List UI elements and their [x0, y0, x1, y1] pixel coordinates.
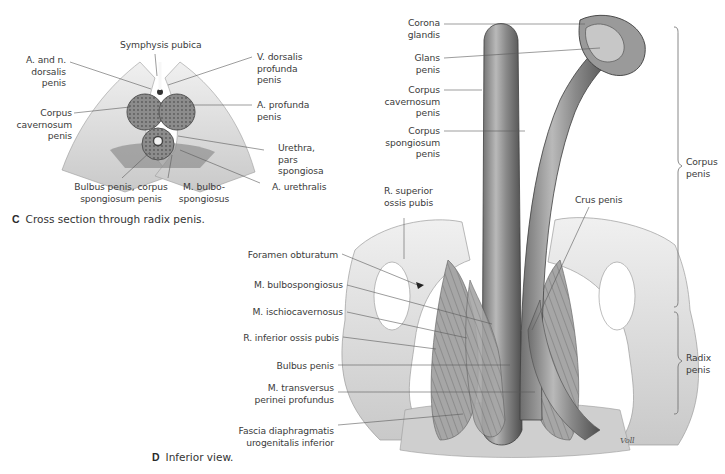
line: ossis pubis	[384, 197, 433, 209]
line: penis	[686, 168, 718, 180]
line: spongiosa	[278, 165, 324, 177]
label-m-bulbospongiosus-c: M. bulbo- spongiosus	[176, 181, 232, 204]
line: penis	[16, 77, 66, 89]
line: Corpus	[686, 156, 718, 168]
label-bulbus-corpus-spongiosum: Bulbus penis, corpus spongiosum penis	[66, 181, 176, 204]
line: penis	[370, 148, 440, 160]
label-a-n-dorsalis-penis: A. and n. dorsalis penis	[16, 54, 66, 89]
line: glandis	[380, 29, 440, 41]
label-m-ischiocavernosus: M. ischiocavernosus	[210, 306, 343, 318]
label-foramen-obturatum: Foramen obturatum	[210, 249, 338, 261]
line: M. transversus	[200, 382, 334, 394]
line: Corpus	[6, 107, 72, 119]
line: penis	[6, 130, 72, 142]
line: penis	[380, 64, 440, 76]
cross-section-drawing	[62, 62, 255, 192]
line: Glans	[380, 52, 440, 64]
line: Radix	[686, 352, 711, 364]
label-glans-penis: Glans penis	[380, 52, 440, 75]
line: penis	[686, 364, 711, 376]
caption-letter: D	[152, 451, 160, 463]
line: penis	[257, 111, 309, 123]
label-fascia-diaphragmatis: Fascia diaphragmatis urogenitalis inferi…	[200, 425, 334, 448]
line: M. bulbo-	[176, 181, 232, 193]
label-corona-glandis: Corona glandis	[380, 17, 440, 40]
label-r-superior-ossis-pubis: R. superior ossis pubis	[384, 185, 433, 208]
label-corpus-spongiosum-d: Corpus spongiosum penis	[370, 125, 440, 160]
line: cavernosum	[6, 119, 72, 131]
caption-text: Cross section through radix penis.	[26, 213, 205, 225]
label-v-dorsalis-profunda: V. dorsalis profunda penis	[257, 51, 302, 86]
line: profunda	[257, 63, 302, 75]
line: R. superior	[384, 185, 433, 197]
label-symphysis-pubica: Symphysis pubica	[120, 39, 201, 51]
caption-letter: C	[12, 213, 20, 225]
line: Urethra,	[278, 142, 324, 154]
caption-text: Inferior view.	[166, 451, 234, 463]
line: Corpus	[370, 125, 440, 137]
line: V. dorsalis	[257, 51, 302, 63]
line: penis	[370, 107, 440, 119]
caption-c: CCross section through radix penis.	[12, 213, 205, 225]
line: Bulbus penis, corpus	[66, 181, 176, 193]
label-urethra-pars-spongiosa: Urethra, pars spongiosa	[278, 142, 324, 177]
label-corpus-cavernosum-d: Corpus cavernosum penis	[370, 84, 440, 119]
label-brace-corpus-penis: Corpus penis	[686, 156, 718, 179]
line: Corpus	[370, 84, 440, 96]
line: A. profunda	[257, 99, 309, 111]
line: cavernosum	[370, 96, 440, 108]
line: dorsalis	[16, 66, 66, 78]
inferior-view-drawing	[342, 15, 699, 457]
label-m-transversus-perinei: M. transversus perinei profundus	[200, 382, 334, 405]
label-a-urethralis: A. urethralis	[272, 181, 326, 193]
line: Corona	[380, 17, 440, 29]
line: A. and n.	[16, 54, 66, 66]
line: perinei profundus	[200, 394, 334, 406]
line: spongiosum	[370, 137, 440, 149]
line: penis	[257, 74, 302, 86]
label-corpus-cavernosum-c: Corpus cavernosum penis	[6, 107, 72, 142]
label-r-inferior-ossis-pubis: R. inferior ossis pubis	[200, 332, 339, 344]
line: Fascia diaphragmatis	[200, 425, 334, 437]
line: pars	[278, 154, 324, 166]
line: spongiosus	[176, 193, 232, 205]
label-crus-penis: Crus penis	[575, 194, 622, 206]
line: spongiosum penis	[66, 193, 176, 205]
label-a-profunda-penis: A. profunda penis	[257, 99, 309, 122]
anatomy-illustration	[0, 0, 725, 474]
caption-d: DInferior view.	[152, 451, 233, 463]
artist-signature: Voll	[620, 435, 635, 447]
line: urogenitalis inferior	[200, 437, 334, 449]
label-m-bulbospongiosus-d: M. bulbospongiosus	[210, 279, 343, 291]
label-bulbus-penis: Bulbus penis	[200, 360, 334, 372]
label-brace-radix-penis: Radix penis	[686, 352, 711, 375]
